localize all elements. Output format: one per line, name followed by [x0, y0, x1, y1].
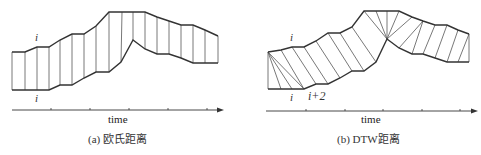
time-axis-label-b: time [361, 113, 381, 125]
axis-arrow-icon [471, 109, 478, 114]
alignment-link [447, 30, 458, 62]
alignment-link [458, 34, 469, 62]
alignment-link [268, 52, 281, 89]
index-bottom-label-a: i [35, 92, 38, 104]
alignment-link [387, 17, 412, 39]
index-top-label-b: i [290, 31, 293, 43]
alignment-link [304, 47, 328, 84]
caption-dtw: (b) DTW距离 [337, 130, 400, 146]
top-time-series [12, 12, 218, 52]
alignment-link [281, 50, 304, 89]
axis-arrow-icon [217, 108, 224, 113]
alignment-link [364, 11, 387, 39]
top-time-series [268, 11, 469, 52]
time-axis-label-a: time [108, 113, 128, 125]
index-bottom-label-b-plus2: i+2 [308, 89, 325, 104]
index-bottom-label-b: i [290, 91, 293, 103]
diagram-canvas [0, 0, 481, 155]
caption-euclidean: (a) 欧氏距离 [88, 130, 147, 146]
alignment-link [352, 27, 376, 62]
alignment-link [423, 25, 435, 54]
alignment-link [435, 25, 447, 58]
index-top-label-a: i [35, 31, 38, 43]
alignment-link [292, 47, 316, 84]
alignment-link [268, 52, 292, 89]
alignment-link [121, 12, 122, 62]
alignment-link [387, 11, 399, 39]
alignment-link [376, 11, 387, 39]
alignment-link [412, 21, 423, 54]
